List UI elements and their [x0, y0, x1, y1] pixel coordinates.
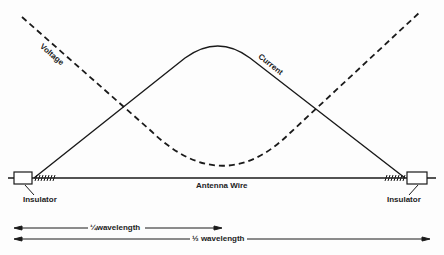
insulator-left: [14, 172, 32, 184]
insulator-left-label: Insulator: [23, 195, 57, 204]
quarter-wavelength-label: ¼wavelength: [90, 223, 140, 232]
insulator-right: [407, 172, 427, 184]
insulator-left-pointer: [25, 185, 34, 195]
insulator-right-label: Insulator: [387, 195, 421, 204]
half-wavelength-label: ½ wavelength: [192, 234, 244, 243]
insulator-right-pointer: [409, 185, 418, 195]
current-curve: [34, 46, 405, 178]
diagram-graphics: [0, 0, 444, 255]
antenna-wire-label: Antenna Wire: [196, 181, 248, 190]
antenna-diagram: Voltage Current Antenna Wire Insulator I…: [0, 0, 444, 255]
